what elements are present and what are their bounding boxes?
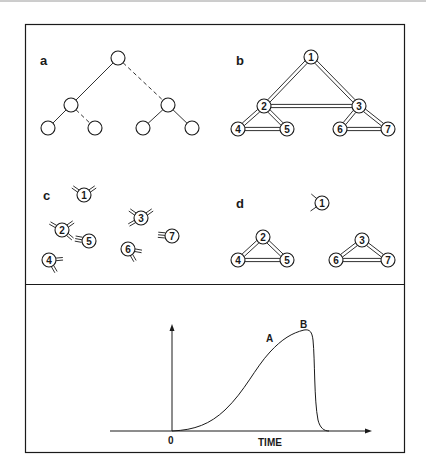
free-unit-2: 2 xyxy=(49,221,74,240)
cluster-node-5: 5 xyxy=(280,253,294,267)
free-unit-7: 7 xyxy=(158,229,179,243)
node-number: 3 xyxy=(359,235,365,246)
tree-edge xyxy=(173,110,187,123)
free-unit-5: 5 xyxy=(75,234,96,248)
bond-edge xyxy=(363,109,383,126)
node-number: 1 xyxy=(308,52,314,63)
node-number: 6 xyxy=(337,124,343,135)
response-curve xyxy=(172,330,329,431)
node-number: 2 xyxy=(59,225,65,236)
node-number: 6 xyxy=(125,244,131,255)
free-unit-1: 1 xyxy=(72,186,96,202)
bond-edge xyxy=(341,243,358,257)
tree-edge xyxy=(123,63,163,100)
bond-edge xyxy=(242,241,259,257)
cluster-node-3: 3 xyxy=(355,233,369,247)
tree-edge xyxy=(53,110,66,123)
tree-node xyxy=(64,98,78,112)
panel-label-c: c xyxy=(43,188,50,203)
bond-edge xyxy=(245,127,280,130)
cluster-node-1: 1 xyxy=(311,194,329,211)
figure-canvas: a b c d 1234567 1254367 1245367 A B 0 TI… xyxy=(0,0,426,476)
cluster-node-7: 7 xyxy=(381,253,395,267)
node-number: 5 xyxy=(86,236,92,247)
receptor-arm-icon xyxy=(135,249,142,253)
cluster-node-2: 2 xyxy=(256,230,270,244)
bond-edge xyxy=(315,61,355,102)
graph-panel: A B 0 TIME xyxy=(110,319,372,448)
network-node-6: 6 xyxy=(333,122,347,136)
node-number: 3 xyxy=(356,101,362,112)
tree-node xyxy=(161,98,175,112)
free-unit-3: 3 xyxy=(128,209,153,226)
panel-c-dissociated-units: 1254367 xyxy=(42,186,179,273)
network-node-7: 7 xyxy=(381,122,395,136)
node-number: 6 xyxy=(333,255,339,266)
panel-label-b: b xyxy=(236,53,244,68)
point-a-label: A xyxy=(266,333,273,344)
receptor-arm-icon xyxy=(311,194,316,198)
free-unit-4: 4 xyxy=(42,253,63,273)
node-number: 1 xyxy=(81,190,87,201)
tree-edge xyxy=(76,110,90,123)
tree-node xyxy=(185,121,199,135)
bond-edge xyxy=(343,258,381,261)
panel-b-connected-network: 1234567 xyxy=(231,50,395,136)
panel-a-binary-tree xyxy=(41,51,199,135)
panel-label-d: d xyxy=(236,196,244,211)
tree-edge xyxy=(148,110,163,124)
bond-edge xyxy=(267,241,283,257)
bond-edge xyxy=(271,104,352,107)
network-node-3: 3 xyxy=(352,99,366,113)
network-node-5: 5 xyxy=(280,122,294,136)
bond-edge xyxy=(268,110,283,125)
cluster-node-6: 6 xyxy=(329,253,343,267)
panel-d-partial-networks: 1245367 xyxy=(231,194,395,267)
tree-node xyxy=(88,121,102,135)
receptor-arm-icon xyxy=(311,207,317,211)
receptor-arm-icon xyxy=(158,232,165,238)
bond-edge xyxy=(242,109,260,125)
node-number: 4 xyxy=(46,255,52,266)
panel-label-a: a xyxy=(40,53,48,68)
network-node-4: 4 xyxy=(231,122,245,136)
receptor-arm-icon xyxy=(75,236,83,242)
node-number: 2 xyxy=(260,232,266,243)
origin-label: 0 xyxy=(168,435,174,446)
node-number: 7 xyxy=(385,124,391,135)
bond-edge xyxy=(367,243,384,257)
y-axis-arrow-icon xyxy=(170,324,175,331)
tree-node xyxy=(41,121,55,135)
network-node-2: 2 xyxy=(257,99,271,113)
point-b-label: B xyxy=(300,319,307,330)
node-number: 5 xyxy=(284,255,290,266)
x-axis-label: TIME xyxy=(258,437,282,448)
node-number: 2 xyxy=(261,101,267,112)
node-number: 4 xyxy=(235,255,241,266)
cluster-node-4: 4 xyxy=(231,253,245,267)
node-number: 7 xyxy=(169,231,175,242)
network-node-1: 1 xyxy=(304,50,318,64)
tree-edge xyxy=(76,63,113,100)
bond-edge xyxy=(343,110,356,124)
node-number: 5 xyxy=(284,124,290,135)
receptor-arm-icon xyxy=(56,257,63,260)
node-number: 7 xyxy=(385,255,391,266)
tree-node xyxy=(111,51,125,65)
x-axis-arrow-icon xyxy=(365,429,372,434)
bond-edge xyxy=(347,127,381,130)
node-number: 3 xyxy=(138,213,144,224)
node-number: 4 xyxy=(235,124,241,135)
bond-edge xyxy=(268,61,308,102)
tree-node xyxy=(136,121,150,135)
node-number: 1 xyxy=(319,198,325,209)
free-unit-6: 6 xyxy=(121,242,142,262)
bond-edge xyxy=(245,258,280,261)
